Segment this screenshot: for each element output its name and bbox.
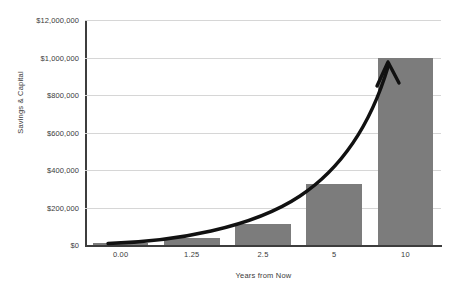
x-axis-tick-label: 1.25 [184, 250, 199, 259]
y-axis-tick-label: $800,000 [5, 91, 79, 100]
y-axis-tick-label: $0 [5, 241, 79, 250]
plot-area [85, 20, 441, 245]
x-axis-tick-labels: 0.001.252.5510 [85, 250, 442, 268]
bar [93, 243, 149, 245]
bar [235, 224, 291, 245]
gridline [85, 20, 441, 21]
bar-chart: Savings & Capital $0$200,000$400,000$600… [0, 0, 452, 293]
bar [306, 184, 362, 245]
x-axis-tick-label: 5 [332, 250, 336, 259]
y-axis-tick-label: $200,000 [5, 203, 79, 212]
x-axis-tick-label: 2.5 [257, 250, 268, 259]
y-axis-tick-label: $400,000 [5, 166, 79, 175]
x-axis-tick-label: 10 [401, 250, 410, 259]
x-axis-tick-label: 0.00 [113, 250, 128, 259]
y-axis-tick-label: $12,000,000 [5, 16, 79, 25]
gridline [85, 245, 441, 246]
y-axis-tick-label: $1,000,000 [5, 53, 79, 62]
y-axis-tick-label: $600,000 [5, 128, 79, 137]
y-axis-tick-labels: $0$200,000$400,000$600,000$800,000$1,000… [0, 0, 79, 293]
bar [378, 58, 434, 246]
bar [164, 238, 220, 245]
x-axis-title: Years from Now [85, 271, 442, 280]
